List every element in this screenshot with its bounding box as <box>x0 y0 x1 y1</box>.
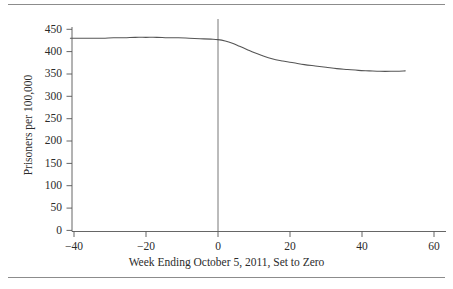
x-tick-label: 40 <box>342 241 382 253</box>
y-tick-label: 300 <box>32 91 62 103</box>
figure-container: 450 400 350 300 250 200 150 100 50 0 −40… <box>0 0 453 289</box>
y-tick-label: 450 <box>32 24 62 36</box>
series-line-prisoners-per-100000 <box>70 37 405 71</box>
y-axis-label: Prisoners per 100,000 <box>22 55 34 195</box>
x-tick-label: 0 <box>198 241 238 253</box>
x-axis-label: Week Ending October 5, 2011, Set to Zero <box>0 256 453 268</box>
y-tick-label: 250 <box>32 113 62 125</box>
y-tick-label: 350 <box>32 68 62 80</box>
x-tick-label: 20 <box>270 241 310 253</box>
x-tick-label: −20 <box>126 241 166 253</box>
x-tick-label: −40 <box>54 241 94 253</box>
y-tick-label: 100 <box>32 180 62 192</box>
y-tick-label: 150 <box>32 158 62 170</box>
y-tick-marks <box>67 29 73 230</box>
y-tick-label: 200 <box>32 135 62 147</box>
x-tick-marks <box>74 232 434 238</box>
y-tick-label: 0 <box>32 225 62 237</box>
x-tick-label: 60 <box>414 241 453 253</box>
y-tick-label: 50 <box>32 202 62 214</box>
y-tick-label: 400 <box>32 46 62 58</box>
